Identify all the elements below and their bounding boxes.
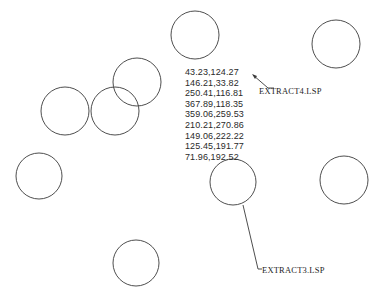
circle-mid — [91, 87, 139, 135]
coordinate-row: 250.41,116.81 — [185, 88, 244, 99]
coordinate-row: 367.89,118.35 — [185, 99, 244, 110]
coordinate-row: 125.45,191.77 — [185, 141, 244, 152]
circle-far-right — [320, 156, 368, 204]
coordinate-row: 71.96,192.52 — [185, 152, 244, 163]
coordinate-row: 149.06,222.22 — [185, 131, 244, 142]
coordinate-row: 146.21,33.82 — [185, 78, 244, 89]
circle-center-right — [210, 159, 256, 205]
coordinate-list: 43.23,124.27146.21,33.82250.41,116.81367… — [185, 67, 244, 162]
coordinate-row: 359.06,259.53 — [185, 109, 244, 120]
circle-top — [171, 11, 219, 59]
extract3-label: EXTRACT3.LSP — [262, 265, 325, 275]
coordinate-row: 43.23,124.27 — [185, 67, 244, 78]
circle-top-right — [312, 20, 360, 68]
circle-left — [41, 87, 89, 135]
circle-bottom — [113, 240, 159, 286]
coordinate-row: 210.21,270.86 — [185, 120, 244, 131]
circle-upper-mid — [113, 58, 161, 106]
circle-lower-left — [16, 153, 62, 199]
extract4-label: EXTRACT4.LSP — [259, 86, 322, 96]
leader-extract3 — [243, 205, 262, 269]
